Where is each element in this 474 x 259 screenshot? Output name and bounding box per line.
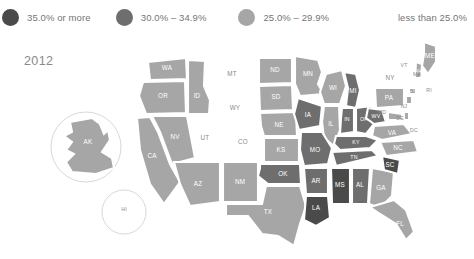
state-label-OR: OR	[158, 92, 168, 99]
legend-circle-icon	[373, 9, 390, 26]
state-label-VA: VA	[388, 129, 397, 136]
state-label-CT: CT	[408, 87, 416, 93]
state-label-LA: LA	[312, 204, 321, 211]
state-MA[interactable]	[410, 80, 424, 86]
legend-label: 25.0% – 29.9%	[263, 12, 329, 23]
legend-label: 30.0% – 34.9%	[141, 12, 207, 23]
state-label-CA: CA	[147, 152, 157, 159]
state-label-DC: DC	[410, 127, 418, 133]
state-DE[interactable]	[404, 112, 409, 120]
state-label-ND: ND	[270, 66, 280, 73]
state-label-KY: KY	[352, 139, 360, 145]
state-label-KS: KS	[277, 146, 286, 153]
state-label-ID: ID	[194, 92, 201, 99]
state-label-MO: MO	[310, 146, 321, 153]
state-label-MA: MA	[413, 71, 422, 77]
legend: 35.0% or more 30.0% – 34.9% 25.0% – 29.9…	[0, 0, 474, 34]
state-label-UT: UT	[201, 134, 210, 141]
state-label-TN: TN	[350, 154, 357, 160]
state-label-IL: IL	[328, 120, 334, 127]
state-label-PA: PA	[385, 94, 394, 101]
state-label-FL: FL	[396, 220, 404, 227]
state-label-ME: ME	[425, 52, 435, 59]
state-label-AR: AR	[311, 177, 320, 184]
state-label-IN: IN	[344, 116, 350, 122]
legend-item-under-25: less than 25.0%	[360, 0, 474, 34]
state-label-DE: DE	[396, 115, 404, 121]
state-label-AZ: AZ	[194, 180, 202, 187]
state-label-NV: NV	[170, 133, 180, 140]
state-label-RI: RI	[426, 87, 432, 93]
state-LA[interactable]	[304, 196, 330, 226]
state-label-IA: IA	[305, 111, 312, 118]
legend-item-35-plus: 35.0% or more	[0, 0, 116, 34]
state-label-MN: MN	[303, 70, 313, 77]
legend-item-30-34: 30.0% – 34.9%	[116, 0, 239, 34]
state-label-NY: NY	[385, 74, 395, 81]
state-label-MT: MT	[227, 70, 237, 77]
legend-label: 35.0% or more	[27, 12, 91, 23]
legend-label: less than 25.0%	[398, 12, 467, 23]
state-label-GA: GA	[376, 184, 386, 191]
state-label-NC: NC	[393, 144, 403, 151]
state-label-NM: NM	[235, 178, 245, 185]
us-choropleth-map: AK HI WA OR ID MT WY NV UT CA AZ	[0, 34, 474, 259]
state-label-NE: NE	[274, 121, 283, 128]
state-FL[interactable]	[370, 200, 414, 240]
state-label-SC: SC	[385, 161, 394, 168]
state-RI[interactable]	[418, 88, 422, 93]
state-label-WI: WI	[329, 84, 337, 91]
state-label-SD: SD	[271, 93, 280, 100]
state-label-MI: MI	[349, 87, 356, 94]
state-label-HI: HI	[121, 206, 127, 212]
legend-circle-icon	[116, 9, 133, 26]
state-label-NJ: NJ	[401, 103, 408, 109]
legend-circle-icon	[2, 9, 19, 26]
state-label-WY: WY	[230, 104, 241, 111]
state-label-MS: MS	[335, 181, 345, 188]
state-AK[interactable]	[64, 118, 114, 174]
state-label-TX: TX	[264, 208, 273, 215]
state-label-AK: AK	[84, 138, 93, 145]
state-label-AL: AL	[356, 181, 364, 188]
state-label-OK: OK	[278, 170, 288, 177]
state-label-VT: VT	[400, 62, 408, 68]
legend-item-25-29: 25.0% – 29.9%	[238, 0, 360, 34]
state-label-WA: WA	[162, 64, 173, 71]
state-label-CO: CO	[238, 138, 248, 145]
map-figure: 35.0% or more 30.0% – 34.9% 25.0% – 29.9…	[0, 0, 474, 259]
legend-circle-icon	[238, 9, 255, 26]
state-label-MD: MD	[378, 109, 387, 115]
